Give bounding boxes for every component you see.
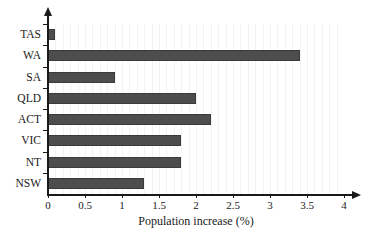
bar-row	[48, 109, 344, 130]
bar-row	[48, 88, 344, 109]
x-tick-mark	[122, 194, 123, 198]
bar-vic	[48, 135, 181, 146]
bar-row	[48, 130, 344, 151]
x-tick-mark	[85, 194, 86, 198]
y-tick-mark	[43, 88, 47, 89]
x-tick-label: 0.5	[65, 199, 105, 212]
y-category-label-act: ACT	[0, 113, 41, 126]
bar-series	[48, 24, 344, 194]
y-tick-mark	[43, 130, 47, 131]
y-tick-mark	[43, 45, 47, 46]
x-tick-label: 4	[324, 199, 364, 212]
x-tick-label: 0	[28, 199, 68, 212]
bar-nt	[48, 157, 181, 168]
y-tick-mark	[43, 67, 47, 68]
x-tick-mark	[307, 194, 308, 198]
bar-wa	[48, 50, 300, 61]
x-axis-arrow-icon	[352, 191, 361, 199]
bar-sa	[48, 72, 115, 83]
y-category-label-nsw: NSW	[0, 177, 41, 190]
bar-tas	[48, 29, 55, 40]
x-tick-mark	[233, 194, 234, 198]
x-tick-mark	[48, 194, 49, 198]
y-category-label-qld: QLD	[0, 92, 41, 105]
y-category-label-sa: SA	[0, 71, 41, 84]
y-category-label-wa: WA	[0, 49, 41, 62]
bar-row	[48, 152, 344, 173]
y-category-label-tas: TAS	[0, 28, 41, 41]
x-axis-title: Population increase (%)	[48, 214, 344, 229]
plot-area	[48, 24, 344, 194]
bar-row	[48, 45, 344, 66]
y-tick-mark	[43, 109, 47, 110]
y-category-label-vic: VIC	[0, 134, 41, 147]
bar-nsw	[48, 178, 144, 189]
y-category-label-nt: NT	[0, 156, 41, 169]
y-axis-line	[47, 14, 49, 195]
x-tick-label: 1.5	[139, 199, 179, 212]
bar-chart: 00.511.522.533.54 TASWASAQLDACTVICNTNSW …	[0, 0, 376, 239]
bar-act	[48, 114, 211, 125]
bar-qld	[48, 93, 196, 104]
x-tick-mark	[344, 194, 345, 198]
x-tick-mark	[270, 194, 271, 198]
y-axis-arrow-icon	[44, 7, 52, 16]
y-tick-mark	[43, 24, 47, 25]
bar-row	[48, 24, 344, 45]
bar-row	[48, 67, 344, 88]
x-tick-label: 3.5	[287, 199, 327, 212]
x-tick-label: 2.5	[213, 199, 253, 212]
x-tick-mark	[196, 194, 197, 198]
x-tick-mark	[159, 194, 160, 198]
x-tick-label: 1	[102, 199, 142, 212]
x-tick-label: 3	[250, 199, 290, 212]
x-tick-label: 2	[176, 199, 216, 212]
y-tick-mark	[43, 173, 47, 174]
y-tick-mark	[43, 152, 47, 153]
bar-row	[48, 173, 344, 194]
